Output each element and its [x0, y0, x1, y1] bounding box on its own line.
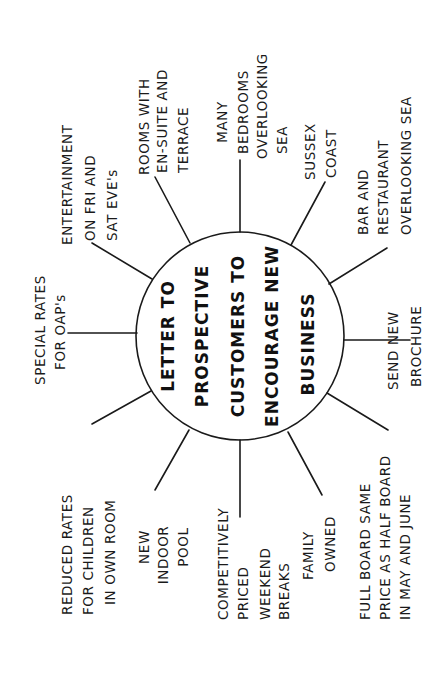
connector-bar-restaurant: [329, 248, 387, 284]
branch-bar-restaurant: BAR AND RESTAURANT OVERLOOKING SEA: [355, 96, 414, 235]
branch-sussex-coast: SUSSEX COAST: [302, 123, 339, 180]
branch-line: IN MAY AND JUNE: [397, 494, 413, 620]
branch-weekend-breaks: COMPETITIVELY PRICED WEEKEND BREAKS: [215, 507, 292, 620]
branch-line: RESTAURANT: [375, 140, 391, 235]
center-line-5: BUSINESS: [298, 293, 318, 396]
branch-line: OVERLOOKING: [254, 53, 270, 159]
branch-reduced-rates: REDUCED RATES FOR CHILDREN IN OWN ROOM: [59, 494, 118, 615]
branch-line: REDUCED RATES: [59, 494, 75, 615]
center-label: LETTER TO PROSPECTIVE CUSTOMERS TO ENCOU…: [158, 245, 318, 427]
branch-line: EN-SUITE AND: [154, 69, 170, 173]
branch-line: POOL: [175, 527, 191, 566]
branch-line: ON FRI AND: [82, 155, 98, 241]
branch-line: IN OWN ROOM: [102, 499, 118, 605]
branch-line: FOR CHILDREN: [80, 506, 96, 615]
branch-line: SAT EVE's: [104, 169, 120, 241]
branch-line: BAR AND: [355, 169, 371, 235]
center-line-3: CUSTOMERS TO: [228, 255, 248, 417]
branch-line: PRICED: [235, 567, 251, 620]
branch-line: BEDROOMS: [235, 70, 251, 154]
branch-line: SEA: [274, 126, 290, 154]
branch-line: WEEKEND: [257, 548, 273, 620]
branch-line: OVERLOOKING SEA: [398, 96, 414, 235]
branch-line: BREAKS: [276, 563, 292, 620]
branch-line: OWNED: [322, 516, 338, 572]
connector-indoor-pool: [155, 430, 189, 490]
branch-special-rates: SPECIAL RATES FOR OAP's: [32, 275, 68, 385]
branch-line: ROOMS WITH: [136, 78, 152, 175]
branch-rooms-ensuite: ROOMS WITH EN-SUITE AND TERRACE: [136, 69, 191, 175]
center-line-1: LETTER TO: [158, 280, 178, 392]
branch-line: MANY: [214, 101, 230, 143]
branch-line: PRICE AS HALF BOARD: [377, 455, 393, 620]
branch-indoor-pool: NEW INDOOR POOL: [136, 526, 191, 585]
connector-sussex-coast: [291, 182, 325, 245]
connector-reduced-rates: [92, 391, 151, 424]
branch-line: SPECIAL RATES: [32, 275, 48, 385]
connector-family-owned: [288, 432, 322, 495]
branch-line: FAMILY: [300, 531, 316, 580]
center-line-4: ENCOURAGE NEW: [262, 245, 282, 427]
center-line-2: PROSPECTIVE: [192, 265, 212, 407]
branch-send-brochure: SEND NEW BROCHURE: [385, 306, 424, 390]
connector-rooms-ensuite: [155, 177, 190, 243]
connector-entertainment: [92, 243, 152, 279]
connector-full-board: [327, 393, 388, 430]
branch-line: TERRACE: [175, 107, 191, 174]
branch-line: FOR OAP's: [52, 294, 68, 370]
branch-line: SUSSEX: [302, 123, 318, 180]
branch-full-board: FULL BOARD SAME PRICE AS HALF BOARD IN M…: [357, 455, 413, 620]
spider-diagram: LETTER TO PROSPECTIVE CUSTOMERS TO ENCOU…: [0, 0, 438, 673]
branch-line: INDOOR: [155, 526, 171, 585]
branch-line: SEND NEW: [385, 311, 401, 390]
branch-entertainment: ENTERTAINMENT ON FRI AND SAT EVE's: [59, 124, 120, 245]
branch-family-owned: FAMILY OWNED: [300, 516, 338, 580]
branch-line: COAST: [323, 129, 339, 178]
branch-line: COMPETITIVELY: [215, 507, 231, 620]
branch-line: NEW: [136, 530, 152, 564]
branch-line: BROCHURE: [408, 306, 424, 387]
branch-line: ENTERTAINMENT: [59, 124, 75, 245]
branch-bedrooms-sea: MANY BEDROOMS OVERLOOKING SEA: [214, 53, 290, 159]
branch-line: FULL BOARD SAME: [357, 483, 373, 620]
